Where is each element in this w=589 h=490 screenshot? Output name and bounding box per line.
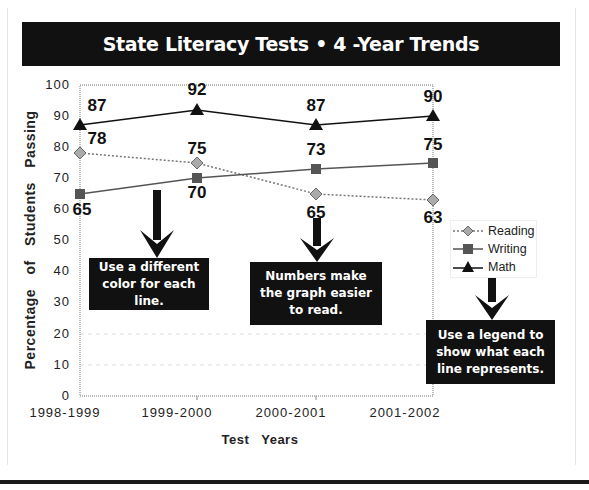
label-math-4: 90	[413, 87, 453, 107]
label-math-3: 87	[296, 96, 336, 116]
label-writing-1: 65	[62, 200, 102, 220]
label-reading-4: 63	[413, 208, 453, 228]
callout-numbers-tip: Numbers make the graph easier to read.	[250, 262, 382, 325]
legend-item-reading: Reading	[451, 222, 535, 240]
reading-legend-icon	[451, 225, 485, 237]
x-axis-label: Test Years	[210, 432, 310, 447]
label-writing-4: 75	[413, 135, 453, 155]
writing-legend-icon	[451, 243, 485, 255]
callout-text: Use a different	[99, 259, 199, 276]
series-math-markers	[73, 103, 440, 130]
bottom-rule	[0, 480, 589, 484]
legend-label-math: Math	[488, 260, 516, 274]
callout-text: show what each	[436, 344, 545, 361]
label-writing-2: 70	[177, 183, 217, 203]
label-reading-2: 75	[177, 139, 217, 159]
series-writing-line	[80, 163, 433, 194]
callout-text: line represents.	[437, 361, 544, 378]
callout-legend-tip: Use a legend to show what each line repr…	[426, 320, 555, 384]
legend-item-math: Math	[451, 258, 516, 276]
callout-text: color for each line.	[89, 276, 209, 310]
x-tick-1999-2000: 1999-2000	[127, 405, 227, 420]
callout-text: the graph easier	[260, 285, 372, 302]
callout-text: to read.	[289, 302, 342, 319]
x-tick-1998-1999: 1998-1999	[15, 405, 115, 420]
label-reading-3: 65	[296, 203, 336, 223]
legend: Reading Writing Math	[450, 220, 537, 278]
legend-label-reading: Reading	[488, 224, 535, 238]
series-reading-line	[80, 153, 433, 200]
label-reading-1: 78	[77, 129, 117, 149]
callout-text: Numbers make	[265, 268, 366, 285]
label-math-2: 92	[177, 80, 217, 100]
callout-text: Use a legend to	[438, 327, 544, 344]
label-writing-3: 73	[296, 140, 336, 160]
callout-color-tip: Use a different color for each line.	[89, 258, 209, 310]
series-math-line	[80, 110, 433, 125]
label-math-1: 87	[77, 96, 117, 116]
x-tick-2001-2002: 2001-2002	[355, 405, 455, 420]
series-writing-markers	[75, 158, 438, 199]
legend-item-writing: Writing	[451, 240, 527, 258]
math-legend-icon	[451, 261, 485, 273]
x-tick-2000-2001: 2000-2001	[241, 405, 341, 420]
legend-label-writing: Writing	[488, 242, 527, 256]
